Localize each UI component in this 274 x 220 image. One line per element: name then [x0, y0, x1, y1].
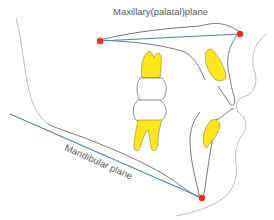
lower-molar — [133, 100, 166, 151]
upper-incisor — [205, 49, 226, 81]
upper-molar-root — [141, 51, 161, 78]
upper-incisor-crown-yellow — [205, 49, 226, 81]
mandibular-plane-line — [10, 114, 202, 198]
mandibular-plane-label: Mandibular plane — [63, 142, 134, 182]
upper-lip-outline — [236, 34, 266, 112]
lower-molar-root — [134, 120, 162, 151]
landmark-posterior-point — [97, 38, 103, 44]
ramus-outline — [16, 18, 48, 124]
upper-molar-crown — [137, 78, 166, 103]
lower-molar-crown — [133, 100, 166, 123]
upper-molar — [137, 51, 166, 102]
landmark-anterior-point — [237, 31, 243, 37]
landmark-menton — [199, 195, 205, 201]
maxillary-plane-label: Maxillary(palatal)plane — [113, 6, 208, 17]
cephalometric-diagram: Maxillary(palatal)plane Mandibular plane — [0, 0, 274, 220]
